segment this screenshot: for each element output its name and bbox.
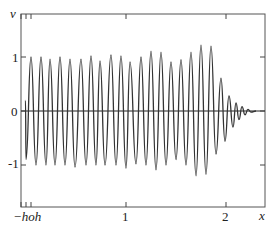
- x-tick-2: 2: [222, 209, 229, 224]
- chart-canvas: v x 1 0 -1 −hoh 1 2: [0, 0, 280, 235]
- y-tick-minus-1: -1: [8, 156, 19, 171]
- y-tick-1: 1: [12, 50, 19, 65]
- y-axis-label: v: [10, 6, 16, 21]
- x-tick-1: 1: [122, 209, 129, 224]
- y-tick-0: 0: [11, 104, 18, 119]
- x-tick-hoh: −hoh: [13, 209, 41, 224]
- x-axis-label: x: [258, 208, 265, 223]
